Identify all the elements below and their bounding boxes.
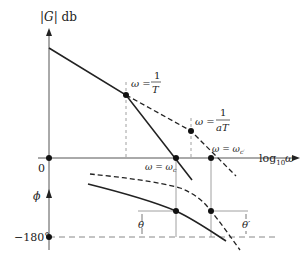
corner-2-label: ω = 1 aT (195, 107, 230, 133)
svg-text:ω =: ω = (131, 78, 151, 89)
magnitude-axis-label: |G| db (40, 10, 77, 24)
phase-compensated (90, 174, 240, 250)
crossover-uncompensated-label: ω = ωc (145, 162, 177, 173)
point-phase-c (173, 208, 179, 214)
phase-axis-arrow (46, 189, 52, 198)
point-crossover-c (173, 155, 179, 161)
frequency-axis-label: log10ω (259, 152, 294, 167)
point-origin (46, 155, 52, 161)
theta-label: θ (138, 219, 144, 230)
origin-label: 0 (38, 162, 45, 175)
svg-text:1: 1 (154, 70, 160, 81)
bode-diagram: |G| db 0 ϕ −180° log10ω ω = 1 T ω = 1 aT… (0, 0, 306, 262)
theta-prime-label: θ′ (242, 219, 251, 230)
phase-uncompensated (88, 184, 226, 241)
point-crossover-c-prime (208, 155, 214, 161)
point-corner-1 (123, 92, 129, 98)
svg-text:ω =: ω = (195, 116, 215, 127)
svg-text:1: 1 (220, 107, 226, 118)
magnitude-uncompensated (49, 48, 192, 180)
svg-text:T: T (152, 84, 160, 95)
point-corner-2 (188, 128, 194, 134)
point-phase-c-prime (208, 208, 214, 214)
minus-180-label: −180° (14, 231, 50, 244)
phase-axis-label: ϕ (33, 190, 41, 203)
corner-1-label: ω = 1 T (131, 70, 161, 95)
svg-text:aT: aT (216, 122, 230, 133)
crossover-compensated-label: ω = ωc′ (212, 144, 245, 155)
